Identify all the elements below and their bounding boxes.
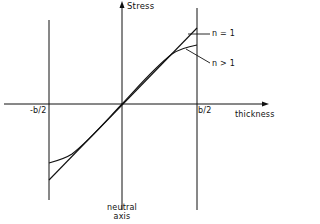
n-equals-1-label: n = 1 <box>212 29 235 38</box>
stress-axis-label: Stress <box>127 1 154 11</box>
left-tick-label: -b/2 <box>30 106 47 115</box>
thickness-axis-label: thickness <box>235 110 275 119</box>
neutral-axis-label-line2: axis <box>104 212 140 221</box>
stress-axis-arrow <box>120 1 125 8</box>
n-greater-1-label: n > 1 <box>212 59 235 68</box>
thickness-axis-arrow <box>262 102 269 107</box>
neutral-axis-label-line1: neutral <box>104 203 140 212</box>
leader-n-gt-1 <box>186 49 210 63</box>
right-tick-label: b/2 <box>198 106 211 115</box>
